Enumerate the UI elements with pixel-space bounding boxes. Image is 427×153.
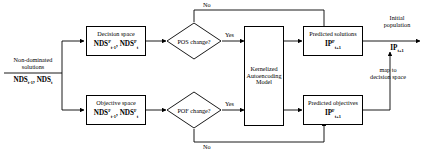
edge-label-pos-no: No: [203, 1, 211, 8]
decision-space-symbol-prefix: NDS: [94, 40, 108, 48]
predicted-objectives-symbol: IPFt+1: [325, 109, 341, 120]
objective-space-symbol-sup-2: F: [134, 108, 137, 113]
predicted-solutions-symbol: IPPt+1: [325, 40, 341, 51]
input-symbol: NDSt-1, NDSt: [4, 76, 62, 86]
flowchart-diagram: Non-dominated solutions NDSt-1, NDSt Dec…: [0, 0, 427, 153]
output-label-line2: population: [371, 21, 423, 28]
node-predicted-objectives[interactable]: Predicted objectives IPFt+1: [303, 95, 363, 125]
node-decision-space[interactable]: Decision space NDSPt-1, NDSPt: [86, 26, 146, 56]
node-objective-space[interactable]: Objective space NDSFt-1, NDSFt: [86, 95, 146, 125]
output-label: Initial population: [371, 14, 423, 28]
node-kernelized-autoencoding-model[interactable]: Kernelized Autoencoding Model: [244, 26, 284, 126]
decision-space-title: Decision space: [97, 31, 134, 38]
objective-space-title: Objective space: [96, 100, 135, 107]
input-symbol-sub-curr: t: [51, 80, 52, 85]
input-symbol-prefix-2: NDS: [37, 76, 51, 84]
edge-label-pos-yes: Yes: [225, 31, 234, 38]
pof-decision-label: POF change?: [166, 107, 222, 114]
objective-space-symbol-sub-prev: t-1: [111, 114, 116, 119]
input-symbol-prefix: NDS: [13, 76, 27, 84]
decision-space-symbol-sub-curr: t: [137, 45, 138, 50]
decision-space-symbol-sup: P: [108, 39, 111, 44]
input-symbol-sub-prev: t-1: [28, 80, 33, 85]
map-label-line1: map to: [355, 66, 421, 73]
predicted-objectives-symbol-sub: t+1: [335, 114, 341, 119]
output-label-line1: Initial: [371, 14, 423, 21]
predicted-objectives-title: Predicted objectives: [308, 100, 358, 107]
edge-label-pof-no: No: [203, 143, 211, 150]
objective-space-symbol-prefix: NDS: [94, 109, 108, 117]
pos-decision-label: POS change?: [166, 38, 222, 45]
input-label-line2: solutions: [4, 63, 62, 70]
edge-label-map-to-decision-space: map to decision space: [355, 66, 421, 80]
decision-space-symbol-sub-prev: t-1: [111, 45, 116, 50]
edge-label-pof-yes: Yes: [225, 100, 234, 107]
node-predicted-solutions[interactable]: Predicted solutions IPPt+1: [303, 26, 363, 56]
objective-space-symbol: NDSFt-1, NDSFt: [94, 109, 139, 120]
decision-space-symbol-sup-2: P: [134, 39, 137, 44]
predicted-objectives-symbol-sup: F: [332, 108, 335, 113]
objective-space-symbol-sub-curr: t: [137, 114, 138, 119]
input-label: Non-dominated solutions: [4, 56, 62, 70]
decision-space-symbol: NDSPt-1, NDSPt: [94, 40, 139, 51]
objective-space-symbol-sup: F: [108, 108, 111, 113]
predicted-solutions-symbol-sub: t+1: [335, 45, 341, 50]
map-label-line2: decision space: [355, 73, 421, 80]
output-symbol-sub: t+1: [397, 48, 403, 53]
output-symbol: IPt+1: [373, 44, 421, 54]
decision-space-symbol-prefix-2: NDS: [120, 40, 134, 48]
model-line3: Model: [256, 79, 272, 86]
predicted-solutions-title: Predicted solutions: [309, 31, 356, 38]
objective-space-symbol-prefix-2: NDS: [120, 109, 134, 117]
predicted-solutions-symbol-sup: P: [332, 39, 335, 44]
input-label-line1: Non-dominated: [4, 56, 62, 63]
